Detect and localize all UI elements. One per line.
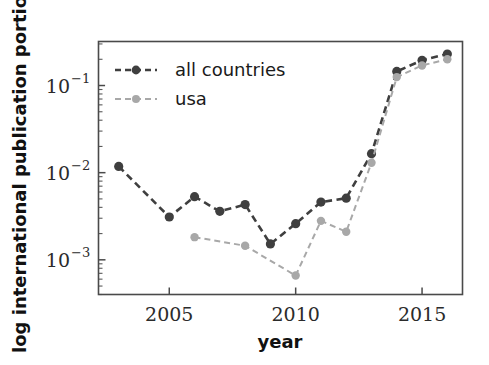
legend-label: all countries	[175, 59, 285, 80]
data-point	[241, 200, 250, 209]
data-point	[190, 233, 198, 241]
data-point	[443, 55, 451, 63]
data-point	[342, 194, 351, 203]
data-point	[215, 207, 224, 216]
y-tick-mantissa: 10	[46, 249, 70, 271]
x-axis-title: year	[258, 331, 303, 352]
x-tick-label-0: 2005	[145, 303, 193, 325]
legend-marker-icon	[132, 95, 140, 103]
data-point	[393, 73, 401, 81]
data-point	[241, 242, 249, 250]
chart-canvas: 10−110−210−3 200520102015 year log inter…	[0, 0, 489, 365]
data-point	[291, 219, 300, 228]
y-tick-exponent: −1	[71, 71, 90, 86]
chart-legend: all countriesusa	[105, 50, 285, 117]
data-point	[317, 217, 325, 225]
legend-label: usa	[175, 88, 207, 109]
data-point	[114, 162, 123, 171]
x-tick-label-group: 200520102015	[145, 303, 446, 325]
data-point	[190, 192, 199, 201]
y-tick-mantissa: 10	[46, 162, 70, 184]
x-tick-label-1: 2010	[271, 303, 319, 325]
chart-figure: 10−110−210−3 200520102015 year log inter…	[0, 0, 489, 365]
data-point	[418, 61, 426, 69]
data-point	[165, 212, 174, 221]
x-tick-label-2: 2015	[398, 303, 446, 325]
y-tick-exponent: −2	[71, 158, 90, 173]
data-point	[316, 197, 325, 206]
data-point	[266, 239, 275, 248]
legend-marker-icon	[132, 66, 141, 75]
data-point	[367, 159, 375, 167]
y-tick-exponent: −3	[71, 245, 90, 260]
y-axis-title: log international publication portion	[9, 0, 30, 353]
data-point	[291, 271, 299, 279]
y-tick-mantissa: 10	[46, 75, 70, 97]
data-point	[342, 228, 350, 236]
